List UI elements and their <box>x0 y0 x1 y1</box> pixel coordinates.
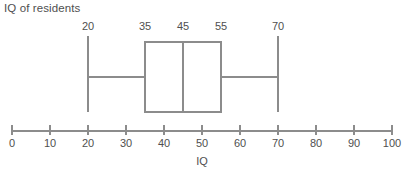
x-axis-tick-label: 40 <box>158 137 170 149</box>
annotation-label: 45 <box>177 20 189 32</box>
x-axis-tick-label: 10 <box>44 137 56 149</box>
annotation-label: 35 <box>139 20 151 32</box>
x-axis-tick-label: 70 <box>272 137 284 149</box>
x-axis-tick-label: 0 <box>9 137 15 149</box>
x-axis-tick-label: 60 <box>234 137 246 149</box>
x-axis-tick-label: 50 <box>196 137 208 149</box>
x-axis-tick-label: 80 <box>310 137 322 149</box>
annotation-label: 70 <box>272 20 284 32</box>
annotation-label: 55 <box>215 20 227 32</box>
x-axis-title: IQ <box>196 155 208 167</box>
x-axis-tick-label: 30 <box>120 137 132 149</box>
box-plot-figure: IQ of residents 2035455570 0102030405060… <box>0 0 404 175</box>
x-axis-tick-label: 90 <box>348 137 360 149</box>
x-axis-tick-label: 20 <box>82 137 94 149</box>
x-axis-tick-label: 100 <box>383 137 401 149</box>
annotation-label: 20 <box>82 20 94 32</box>
